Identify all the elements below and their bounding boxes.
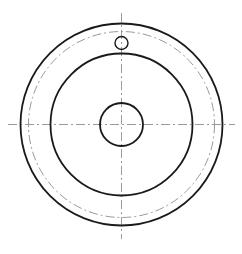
technical-drawing-canvas	[0, 0, 242, 254]
front-view-drawing	[0, 0, 242, 254]
